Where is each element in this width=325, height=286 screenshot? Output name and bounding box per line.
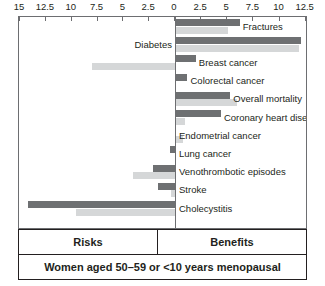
bar-venothrombotic-episodes-upper [153, 165, 175, 172]
axis-tick-benefits-2-5-tick [200, 17, 201, 21]
footer-benefits-label: Benefits [210, 236, 253, 248]
axis-tick-risks-5-tick [122, 17, 123, 21]
bar-label-fractures: Fractures [243, 21, 283, 32]
diverging-bar-chart: 1512.5107.552.502.557.51012.5 FracturesD… [0, 0, 325, 286]
footer-risks-label: Risks [73, 236, 102, 248]
bar-label-overall-mortality: Overall mortality [233, 93, 302, 104]
bar-label-venothrombotic-episodes: Venothrombotic episodes [179, 166, 286, 177]
axis-tick-risks-2-5-tick [148, 17, 149, 21]
plot-area: FracturesDiabetesBreast cancerColorectal… [18, 17, 307, 229]
bar-fractures-upper [176, 19, 240, 26]
axis-tick-benefits-7-5: 7.5 [246, 1, 259, 12]
bar-stroke-upper [158, 183, 175, 190]
bar-stroke-lower [171, 190, 175, 197]
axis-tick-risks-7-5: 7.5 [90, 1, 103, 12]
bar-label-lung-cancer: Lung cancer [179, 148, 231, 159]
bar-breast-cancer-upper [176, 55, 196, 62]
axis-tick-risks-10-tick [71, 17, 72, 21]
axis-tick-risks-10: 10 [65, 1, 76, 12]
axis-tick-benefits-0: 0 [171, 1, 176, 12]
bar-coronary-heart-disease-lower [176, 118, 185, 125]
axis-tick-risks-12-5: 12.5 [36, 1, 55, 12]
axis-tick-benefits-2-5: 2.5 [194, 1, 207, 12]
footer-cell-risks: Risks [19, 230, 158, 254]
bar-label-cholecystitis: Cholecystitis [179, 203, 232, 214]
bar-overall-mortality-lower [176, 99, 237, 106]
axis-tick-risks-15: 15 [14, 1, 25, 12]
bar-diabetes-lower [176, 45, 299, 52]
axis-tick-risks-7-5-tick [97, 17, 98, 21]
bar-diabetes-upper [176, 37, 301, 44]
axis-tick-labels: 1512.5107.552.502.557.51012.5 [0, 0, 325, 16]
bar-colorectal-cancer-upper [176, 74, 187, 81]
caption-row: Women aged 50–59 or <10 years menopausal [18, 254, 307, 280]
caption-text: Women aged 50–59 or <10 years menopausal [44, 261, 281, 273]
bar-venothrombotic-episodes-lower [133, 172, 175, 179]
bar-lung-cancer-upper [170, 146, 175, 153]
bar-coronary-heart-disease-upper [176, 110, 221, 117]
axis-tick-benefits-10-tick [279, 17, 280, 21]
axis-tick-benefits-5: 5 [224, 1, 229, 12]
bar-label-coronary-heart-disease: Coronary heart disease [224, 112, 307, 123]
bar-label-stroke: Stroke [179, 184, 206, 195]
axis-tick-risks-2-5: 2.5 [142, 1, 155, 12]
axis-tick-benefits-12-5: 12.5 [295, 1, 314, 12]
axis-tick-benefits-10: 10 [273, 1, 284, 12]
axis-tick-risks-15-tick [19, 17, 20, 21]
axis-tick-benefits-0-tick [174, 17, 175, 21]
axis-tick-benefits-7-5-tick [252, 17, 253, 21]
footer-row: Risks Benefits [18, 229, 307, 255]
bar-fractures-lower [176, 27, 228, 34]
bar-label-endometrial-cancer: Endometrial cancer [179, 130, 261, 141]
bar-breast-cancer-lower [92, 63, 175, 70]
footer-cell-benefits: Benefits [158, 230, 306, 254]
bar-label-colorectal-cancer: Colorectal cancer [190, 75, 264, 86]
axis-tick-risks-5: 5 [120, 1, 125, 12]
bar-cholecystitis-upper [28, 201, 175, 208]
bar-label-diabetes: Diabetes [135, 39, 173, 50]
axis-tick-benefits-5-tick [226, 17, 227, 21]
axis-tick-risks-12-5-tick [45, 17, 46, 21]
bar-label-breast-cancer: Breast cancer [199, 57, 258, 68]
bar-overall-mortality-upper [176, 92, 230, 99]
axis-tick-benefits-12-5-tick [305, 17, 306, 21]
bar-cholecystitis-lower [76, 209, 175, 216]
